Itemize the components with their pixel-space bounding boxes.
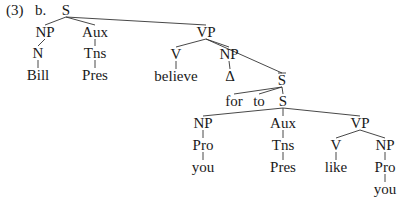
example-sub-label: b. <box>35 2 46 18</box>
tree-node-pres1: Pres <box>82 67 108 83</box>
tree-node-n1: N <box>33 45 44 61</box>
tree-node-np4: NP <box>375 137 394 153</box>
tree-node-s2: S <box>279 93 287 109</box>
tree-node-like: like <box>325 159 348 175</box>
tree-node-to: to <box>253 93 265 109</box>
tree-node-vp2: VP <box>350 115 369 131</box>
tree-node-np1: NP <box>35 24 54 40</box>
tree-node-np2: NP <box>219 46 238 62</box>
tree-node-aux2: Aux <box>270 115 296 131</box>
tree-node-pro1: Pro <box>193 137 214 153</box>
tree-node-np3: NP <box>193 115 212 131</box>
tree-node-v2: V <box>331 137 342 153</box>
tree-node-pro2: Pro <box>375 159 396 175</box>
tree-node-sbar: S <box>278 72 286 88</box>
tree-node-you1: you <box>192 159 215 175</box>
tree-node-for: for <box>225 93 243 109</box>
example-number: (3) <box>6 2 24 19</box>
tree-node-aux1: Aux <box>82 24 108 40</box>
tree-edges <box>38 17 385 182</box>
tree-node-v1: V <box>171 46 182 62</box>
syntax-tree: (3) b. SNPAuxNTnsBillPresVPVNPbelieveΔSf… <box>0 0 406 205</box>
tree-node-s0: S <box>62 2 70 18</box>
tree-node-you2: you <box>374 181 397 197</box>
tree-node-believe: believe <box>154 68 198 84</box>
tree-node-pres2: Pres <box>270 159 296 175</box>
tree-node-bill: Bill <box>27 67 50 83</box>
tree-node-delta: Δ <box>225 68 235 84</box>
tree-node-tns2: Tns <box>272 137 295 153</box>
tree-labels: (3) b. SNPAuxNTnsBillPresVPVNPbelieveΔSf… <box>6 2 397 197</box>
tree-node-tns1: Tns <box>84 45 107 61</box>
syntax-tree-figure: (3) b. SNPAuxNTnsBillPresVPVNPbelieveΔSf… <box>0 0 406 205</box>
tree-node-vp1: VP <box>196 24 215 40</box>
tree-edge <box>206 39 282 73</box>
